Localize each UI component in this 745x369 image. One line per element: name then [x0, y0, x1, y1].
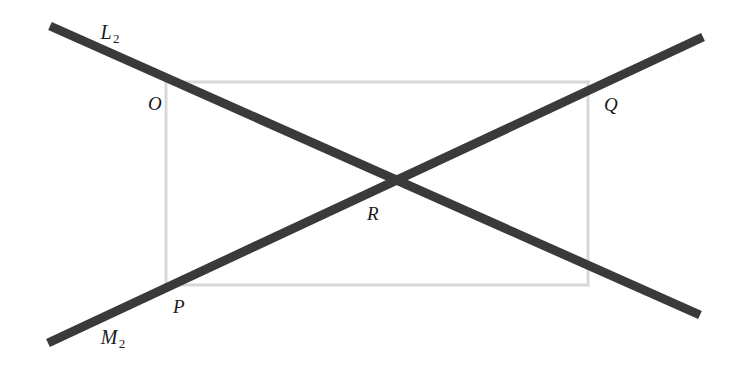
line-label-M2-main: M	[101, 326, 118, 348]
point-label-Q: Q	[604, 95, 618, 114]
point-label-R: R	[367, 204, 379, 223]
point-label-O: O	[148, 94, 162, 113]
line-label-L2-main: L	[100, 21, 111, 43]
line-label-M2-subscript: 2	[119, 335, 126, 350]
point-label-P: P	[173, 297, 185, 316]
line-label-M2: M2	[101, 327, 126, 350]
line-label-L2: L2	[100, 22, 119, 45]
line-label-L2-subscript: 2	[113, 30, 120, 45]
geometry-figure: L2 M2 O Q P R	[0, 0, 745, 369]
figure-canvas	[0, 0, 745, 369]
